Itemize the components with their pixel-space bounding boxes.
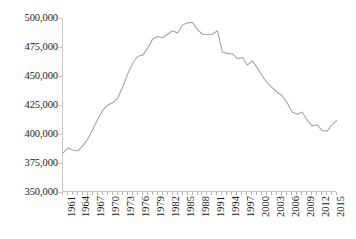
x-axis-tick-mark xyxy=(162,192,163,195)
x-axis-tick-label: 2006 xyxy=(291,196,302,217)
x-axis-tick-mark xyxy=(147,192,148,195)
x-axis-tick-mark xyxy=(182,192,183,195)
x-axis-tick-mark xyxy=(311,192,312,195)
x-axis-tick-mark xyxy=(286,192,287,195)
x-axis-tick-mark xyxy=(231,192,232,195)
line-chart: 350,000375,000400,000425,000450,000475,0… xyxy=(0,0,356,239)
x-axis-tick-mark xyxy=(331,192,332,195)
x-axis-tick-label: 2012 xyxy=(321,196,332,217)
x-axis-tick-mark xyxy=(256,192,257,195)
x-axis-tick-mark xyxy=(261,192,262,195)
x-axis-tick-mark xyxy=(102,192,103,195)
y-axis: 350,000375,000400,000425,000450,000475,0… xyxy=(0,0,58,239)
x-axis-tick-mark xyxy=(326,192,327,195)
x-axis-tick-mark xyxy=(192,192,193,195)
x-axis: 1961196419671970197319761979198219851988… xyxy=(62,196,342,239)
x-axis-tick-mark xyxy=(177,192,178,195)
x-axis-tick-mark xyxy=(296,192,297,195)
x-axis-tick-mark xyxy=(246,192,247,195)
x-axis-tick-label: 1982 xyxy=(171,196,182,217)
x-axis-tick-mark xyxy=(122,192,123,195)
plot-area xyxy=(62,18,336,192)
x-axis-tick-mark xyxy=(87,192,88,195)
x-axis-tick-mark xyxy=(226,192,227,195)
x-axis-tick-mark xyxy=(266,192,267,195)
x-axis-tick-mark xyxy=(206,192,207,195)
x-axis-tick-label: 1964 xyxy=(81,196,92,217)
x-axis-tick-mark xyxy=(112,192,113,195)
x-axis-tick-mark xyxy=(77,192,78,195)
x-axis-tick-mark xyxy=(316,192,317,195)
x-axis-tick-mark xyxy=(201,192,202,195)
y-axis-tick-label: 450,000 xyxy=(4,71,58,82)
x-axis-tick-mark xyxy=(301,192,302,195)
x-axis-tick-label: 1961 xyxy=(67,196,78,217)
y-axis-tick-mark xyxy=(58,192,62,193)
x-axis-tick-label: 1970 xyxy=(111,196,122,217)
y-axis-tick-label: 475,000 xyxy=(4,42,58,53)
x-axis-tick-mark xyxy=(142,192,143,195)
data-series-line xyxy=(63,23,337,154)
x-axis-tick-mark xyxy=(82,192,83,195)
y-axis-tick-mark xyxy=(58,163,62,164)
x-axis-tick-mark xyxy=(167,192,168,195)
x-axis-tick-mark xyxy=(281,192,282,195)
x-axis-tick-mark xyxy=(251,192,252,195)
x-axis-tick-mark xyxy=(117,192,118,195)
x-axis-tick-label: 1985 xyxy=(186,196,197,217)
x-axis-tick-label: 1994 xyxy=(231,196,242,217)
x-axis-tick-mark xyxy=(172,192,173,195)
x-axis-tick-mark xyxy=(187,192,188,195)
x-axis-tick-mark xyxy=(137,192,138,195)
y-axis-tick-mark xyxy=(58,18,62,19)
data-line-svg xyxy=(63,18,337,192)
x-axis-tick-mark xyxy=(92,192,93,195)
x-axis-tick-mark xyxy=(271,192,272,195)
x-axis-tick-mark xyxy=(67,192,68,195)
y-axis-tick-label: 350,000 xyxy=(4,187,58,198)
x-axis-tick-label: 1997 xyxy=(246,196,257,217)
y-axis-tick-mark xyxy=(58,47,62,48)
x-axis-tick-mark xyxy=(157,192,158,195)
x-axis-tick-mark xyxy=(291,192,292,195)
x-axis-tick-mark xyxy=(107,192,108,195)
x-axis-tick-mark xyxy=(132,192,133,195)
x-axis-tick-mark xyxy=(152,192,153,195)
x-axis-tick-label: 2009 xyxy=(306,196,317,217)
x-axis-tick-mark xyxy=(236,192,237,195)
x-axis-tick-mark xyxy=(97,192,98,195)
y-axis-tick-label: 500,000 xyxy=(4,13,58,24)
x-axis-tick-label: 2003 xyxy=(276,196,287,217)
x-axis-tick-mark xyxy=(127,192,128,195)
x-axis-tick-mark xyxy=(62,192,63,195)
x-axis-tick-label: 1976 xyxy=(141,196,152,217)
x-axis-tick-label: 1979 xyxy=(156,196,167,217)
x-axis-tick-label: 1988 xyxy=(201,196,212,217)
x-axis-tick-mark xyxy=(221,192,222,195)
x-axis-tick-label: 2015 xyxy=(336,196,347,217)
x-axis-tick-mark xyxy=(216,192,217,195)
x-axis-tick-mark xyxy=(276,192,277,195)
x-axis-tick-mark xyxy=(211,192,212,195)
y-axis-tick-label: 400,000 xyxy=(4,129,58,140)
x-axis-tick-mark xyxy=(336,192,337,195)
y-axis-tick-label: 425,000 xyxy=(4,100,58,111)
x-axis-tick-mark xyxy=(241,192,242,195)
x-axis-tick-label: 1967 xyxy=(96,196,107,217)
x-axis-tick-mark xyxy=(306,192,307,195)
y-axis-tick-mark xyxy=(58,134,62,135)
y-axis-tick-label: 375,000 xyxy=(4,158,58,169)
y-axis-tick-mark xyxy=(58,105,62,106)
x-axis-tick-mark xyxy=(321,192,322,195)
y-axis-tick-mark xyxy=(58,76,62,77)
x-axis-tick-mark xyxy=(72,192,73,195)
x-axis-tick-label: 2000 xyxy=(261,196,272,217)
x-axis-tick-mark xyxy=(197,192,198,195)
x-axis-tick-label: 1991 xyxy=(216,196,227,217)
x-axis-tick-label: 1973 xyxy=(126,196,137,217)
